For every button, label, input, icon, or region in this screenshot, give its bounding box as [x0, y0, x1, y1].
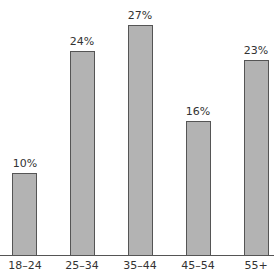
bar-55-plus — [244, 60, 269, 255]
category-label-45-54: 45–54 — [173, 259, 223, 272]
age-distribution-bar-chart: 10% 24% 27% 16% 23% 18–24 25–34 35–44 45… — [0, 0, 274, 274]
value-label-55-plus: 23% — [231, 44, 274, 57]
value-label-25-34: 24% — [57, 35, 107, 48]
bar-25-34 — [70, 51, 95, 255]
bar-45-54 — [186, 121, 211, 255]
value-label-35-44: 27% — [115, 9, 165, 22]
category-label-25-34: 25–34 — [57, 259, 107, 272]
bar-18-24 — [12, 173, 37, 255]
value-label-18-24: 10% — [0, 157, 50, 170]
category-label-35-44: 35–44 — [115, 259, 165, 272]
category-label-55-plus: 55+ — [231, 259, 274, 272]
bar-35-44 — [128, 25, 153, 255]
value-label-45-54: 16% — [173, 105, 223, 118]
x-axis-baseline — [0, 255, 274, 256]
category-label-18-24: 18–24 — [0, 259, 50, 272]
